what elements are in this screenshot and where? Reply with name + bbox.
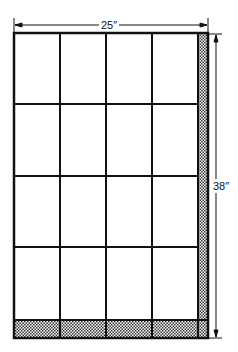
width-label: 25″ xyxy=(99,19,119,31)
right-shaded-strip xyxy=(199,34,208,338)
grid-lines xyxy=(14,34,208,338)
sheet-layout-diagram xyxy=(0,0,238,352)
height-label: 38″ xyxy=(213,179,229,193)
sheet-frame xyxy=(14,33,208,338)
bottom-shaded-strip xyxy=(14,320,208,338)
